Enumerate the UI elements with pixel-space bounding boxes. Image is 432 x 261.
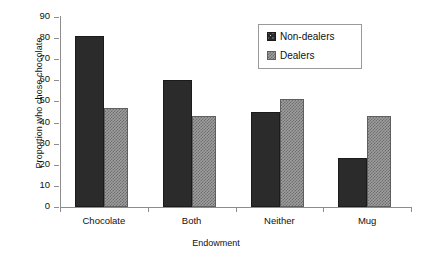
y-tick-mark [54,207,59,208]
y-tick-label: 50 [0,94,50,105]
y-tick-mark [54,144,59,145]
y-tick-label: 70 [0,52,50,63]
x-axis-category-label: Chocolate [54,215,154,226]
bar-chocolate-non-dealers [75,36,104,207]
bar-chocolate-dealers [104,108,128,207]
x-axis-title: Endowment [0,238,432,248]
legend: Non-dealers Dealers [258,24,362,69]
x-axis-category-label: Neither [229,215,329,226]
y-tick-mark [54,165,59,166]
legend-item-non-dealers: Non-dealers [267,31,334,42]
bar-chart: Proportion who chose chocolate 010203040… [0,0,432,261]
legend-label-dealers: Dealers [280,50,314,61]
y-tick-mark [54,38,59,39]
y-tick-label: 0 [0,200,50,211]
y-tick-label: 20 [0,158,50,169]
y-tick-mark [54,59,59,60]
legend-swatch-icon-non-dealers [267,32,276,41]
y-tick-mark [54,17,59,18]
legend-label-non-dealers: Non-dealers [280,31,334,42]
y-tick-label: 40 [0,116,50,127]
bar-mug-dealers [367,116,391,207]
y-tick-label: 10 [0,179,50,190]
x-axis-category-label: Both [142,215,242,226]
x-tick-mark [60,207,61,212]
bar-both-non-dealers [163,80,192,207]
y-tick-mark [54,80,59,81]
x-tick-mark [148,207,149,212]
y-tick-label: 60 [0,73,50,84]
bar-mug-non-dealers [338,158,367,207]
x-axis-category-label: Mug [317,215,417,226]
bar-neither-dealers [280,99,304,207]
x-tick-mark [236,207,237,212]
y-axis-line [60,16,61,208]
bar-both-dealers [192,116,216,207]
bar-neither-non-dealers [251,112,280,207]
y-tick-label: 90 [0,10,50,21]
legend-swatch-icon-dealers [267,51,276,60]
y-tick-mark [54,123,59,124]
y-tick-label: 80 [0,31,50,42]
y-tick-mark [54,186,59,187]
y-tick-label: 30 [0,137,50,148]
y-tick-mark [54,101,59,102]
legend-item-dealers: Dealers [267,50,314,61]
x-tick-mark [411,207,412,212]
x-tick-mark [323,207,324,212]
